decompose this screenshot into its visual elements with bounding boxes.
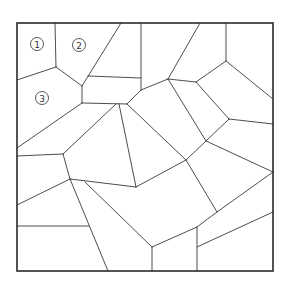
cell-edge [85, 182, 152, 247]
cell-edge [127, 104, 186, 160]
cell-edge [119, 104, 136, 187]
cell-edge [136, 160, 186, 187]
cell-edge [206, 141, 273, 172]
cell-edge [197, 212, 273, 247]
cell-edge [88, 76, 141, 78]
cell-edge [141, 79, 168, 90]
cell-edge [168, 23, 200, 79]
cell-edge [196, 61, 226, 82]
cell-edge [168, 79, 206, 141]
cell-labels: 1 2 3 [31, 38, 86, 105]
cell-edge [152, 227, 197, 247]
cell-edge [197, 212, 217, 227]
cell-edge [17, 179, 70, 205]
label-text: 3 [39, 94, 45, 104]
cell-edge [56, 67, 82, 86]
cell-edge [63, 104, 116, 154]
cell-edge [206, 119, 229, 141]
cell-edge [127, 90, 141, 104]
cell-edge [17, 154, 63, 156]
cell-edge [63, 154, 70, 179]
cell-edge [17, 103, 82, 148]
cell-edge [17, 67, 56, 80]
cell-edge [196, 82, 229, 119]
cell-label-2: 2 [73, 39, 86, 52]
label-text: 2 [76, 41, 82, 51]
label-text: 1 [34, 40, 40, 50]
cell-edges [17, 23, 273, 271]
cell-edge [186, 160, 217, 212]
cell-edge [226, 61, 273, 99]
cell-edge [217, 172, 273, 212]
cell-edge [229, 119, 273, 124]
voronoi-diagram: 1 2 3 [0, 0, 289, 291]
cell-edge [70, 179, 136, 187]
cell-edge [70, 179, 108, 271]
cell-edge [168, 79, 196, 82]
cell-edge [82, 103, 127, 104]
cell-label-1: 1 [31, 38, 44, 51]
cell-label-3: 3 [36, 92, 49, 105]
cell-edge [186, 141, 206, 160]
cell-edge [55, 23, 56, 67]
